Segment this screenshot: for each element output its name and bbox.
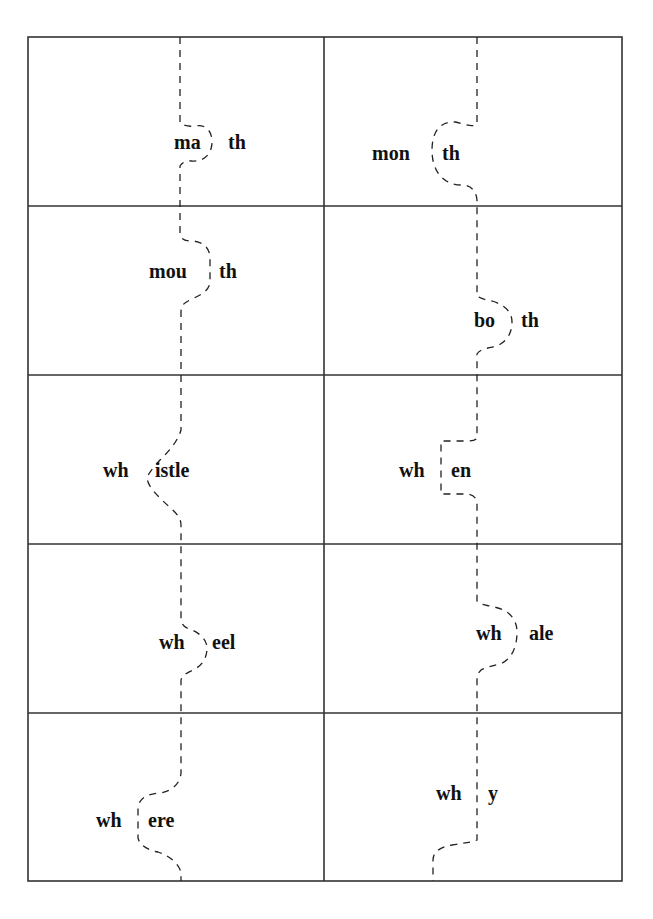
card-wheel: wh eel (159, 631, 236, 653)
card-mouth: mou th (149, 260, 237, 282)
puzzle-worksheet: ma th mon th mou th bo th wh istle wh en… (0, 0, 653, 919)
card-left-fragment: wh (399, 459, 425, 481)
card-right-fragment: en (451, 459, 471, 481)
card-left-fragment: wh (159, 631, 185, 653)
card-where: wh ere (96, 809, 174, 831)
card-math: ma th (174, 131, 246, 153)
card-whistle: wh istle (103, 459, 190, 481)
card-right-fragment: istle (155, 459, 190, 481)
card-left-fragment: ma (174, 131, 201, 153)
card-left-fragment: mon (372, 142, 410, 164)
card-left-fragment: wh (96, 809, 122, 831)
card-right-fragment: eel (212, 631, 236, 653)
card-right-fragment: ere (148, 809, 174, 831)
card-right-fragment: th (228, 131, 246, 153)
card-left-fragment: bo (474, 309, 495, 331)
card-right-fragment: th (442, 142, 460, 164)
card-left-fragment: wh (476, 622, 502, 644)
card-whale: wh ale (476, 622, 554, 644)
card-when: wh en (399, 459, 471, 481)
card-right-fragment: th (521, 309, 539, 331)
card-month: mon th (372, 142, 460, 164)
card-right-fragment: y (488, 782, 498, 805)
card-right-fragment: ale (529, 622, 554, 644)
card-why: wh y (436, 782, 498, 805)
card-left-fragment: mou (149, 260, 187, 282)
card-left-fragment: wh (103, 459, 129, 481)
card-left-fragment: wh (436, 782, 462, 804)
card-right-fragment: th (219, 260, 237, 282)
card-both: bo th (474, 309, 539, 331)
